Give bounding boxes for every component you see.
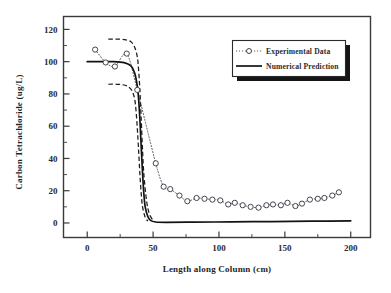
chart-legend: Experimental Data Numerical Prediction [233, 41, 351, 82]
x-tick-label: 50 [149, 243, 159, 253]
data-point-marker [135, 87, 140, 92]
x-tick-label: 200 [344, 243, 358, 253]
data-point-marker [153, 161, 158, 166]
chart-canvas: 050100150200 020406080100120 Length alon… [0, 0, 391, 293]
data-point-marker [293, 203, 298, 208]
legend-label-experimental: Experimental Data [266, 47, 330, 56]
y-tick-label: 100 [44, 57, 58, 67]
data-point-marker [307, 197, 312, 202]
data-point-marker [232, 200, 237, 205]
data-point-marker [93, 47, 98, 52]
data-point-marker [161, 184, 166, 189]
y-tick-label: 20 [49, 186, 59, 196]
data-point-marker [248, 204, 253, 209]
data-point-marker [330, 193, 335, 198]
x-axis-tick-labels: 050100150200 [85, 243, 358, 253]
y-tick-label: 40 [49, 154, 59, 164]
x-tick-label: 100 [212, 243, 226, 253]
legend-box [233, 41, 346, 77]
data-point-marker [322, 195, 327, 200]
x-axis-ticks [87, 232, 351, 238]
data-point-marker [270, 202, 275, 207]
data-point-marker [218, 198, 223, 203]
data-point-marker [112, 64, 117, 69]
data-point-marker [299, 201, 304, 206]
data-point-marker [185, 199, 190, 204]
y-axis-title: Carbon Tetrachloride (ug/L) [14, 74, 24, 189]
y-axis-ticks [64, 29, 70, 223]
data-point-marker [256, 205, 261, 210]
data-point-marker [194, 195, 199, 200]
legend-open-circle-icon [247, 49, 252, 54]
data-point-marker [177, 193, 182, 198]
data-point-marker [226, 202, 231, 207]
data-point-marker [103, 60, 108, 65]
legend-label-prediction: Numerical Prediction [266, 62, 339, 71]
data-point-marker [240, 203, 245, 208]
x-tick-label: 150 [278, 243, 292, 253]
data-point-marker [124, 51, 129, 56]
data-point-marker [278, 203, 283, 208]
y-tick-label: 80 [49, 89, 59, 99]
data-point-marker [315, 196, 320, 201]
data-point-marker [285, 200, 290, 205]
chart-figure: 050100150200 020406080100120 Length alon… [0, 0, 391, 293]
data-point-marker [168, 187, 173, 192]
data-point-marker [264, 203, 269, 208]
y-axis-tick-labels: 020406080100120 [44, 25, 58, 229]
x-tick-label: 0 [85, 243, 90, 253]
data-point-marker [210, 197, 215, 202]
y-tick-label: 60 [49, 121, 59, 131]
data-point-marker [336, 190, 341, 195]
data-point-marker [202, 196, 207, 201]
x-axis-title: Length along Column (cm) [163, 264, 272, 274]
y-tick-label: 120 [44, 25, 58, 35]
y-tick-label: 0 [53, 218, 58, 228]
